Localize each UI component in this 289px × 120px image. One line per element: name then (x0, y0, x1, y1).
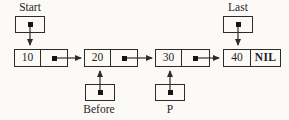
p-pointer-label: P (155, 103, 185, 116)
list-node-2: 20 (84, 49, 138, 67)
list-node-4: 40 NIL (223, 49, 281, 67)
node4-value-cell: 40 (223, 49, 251, 67)
node3-value-cell: 30 (155, 49, 182, 67)
before-pointer-box (85, 84, 115, 101)
node4-nil-cell: NIL (251, 49, 281, 67)
node3-next-dot (193, 56, 198, 61)
last-pointer-box (223, 16, 253, 33)
p-pointer-box (155, 84, 185, 101)
node2-next-dot (122, 56, 127, 61)
node3-next-cell (182, 49, 210, 67)
node2-value-cell: 20 (84, 49, 111, 67)
node1-next-dot (52, 56, 57, 61)
last-pointer-dot (236, 22, 241, 27)
p-pointer-dot (168, 90, 173, 95)
node1-value-cell: 10 (14, 49, 41, 67)
last-pointer-label: Last (222, 1, 254, 14)
list-node-3: 30 (155, 49, 210, 67)
list-node-1: 10 (14, 49, 68, 67)
node2-next-cell (111, 49, 138, 67)
before-pointer-label: Before (77, 103, 121, 116)
node1-next-cell (41, 49, 68, 67)
before-pointer-dot (98, 90, 103, 95)
start-pointer-dot (28, 22, 33, 27)
linked-list-diagram: Start Last Before P 10 20 30 40 NIL (0, 0, 289, 120)
start-pointer-box (15, 16, 45, 33)
start-pointer-label: Start (14, 1, 46, 14)
